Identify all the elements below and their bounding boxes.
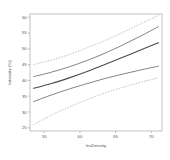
x-tick-label: 70 <box>149 134 154 139</box>
x-axis-ticks: 55606570 <box>42 131 154 139</box>
y-axis-title: Intensity (%) <box>7 60 12 85</box>
curve-lower-confidence-band <box>34 66 159 101</box>
curve-fitted-regression-line <box>34 43 159 89</box>
x-tick-label: 65 <box>113 134 118 139</box>
y-tick-label: 25 <box>22 125 27 130</box>
plot-canvas: 2530354045505560 55606570 InvDensity Int… <box>0 0 170 160</box>
y-tick-label: 45 <box>22 62 27 67</box>
y-tick-label: 50 <box>22 46 27 51</box>
y-tick-label: 55 <box>22 30 27 35</box>
regression-chart-figure: 2530354045505560 55606570 InvDensity Int… <box>0 0 170 160</box>
x-tick-label: 60 <box>78 134 83 139</box>
x-tick-label: 55 <box>42 134 47 139</box>
x-axis-title: InvDensity <box>86 143 107 148</box>
y-tick-label: 60 <box>22 15 27 20</box>
data-curves <box>34 15 159 124</box>
y-tick-label: 35 <box>22 94 27 99</box>
curve-upper-confidence-band <box>34 27 159 77</box>
curve-lower-prediction-band <box>34 78 159 125</box>
y-tick-label: 30 <box>22 110 27 115</box>
y-tick-label: 40 <box>22 78 27 83</box>
y-axis-ticks: 2530354045505560 <box>22 15 30 131</box>
